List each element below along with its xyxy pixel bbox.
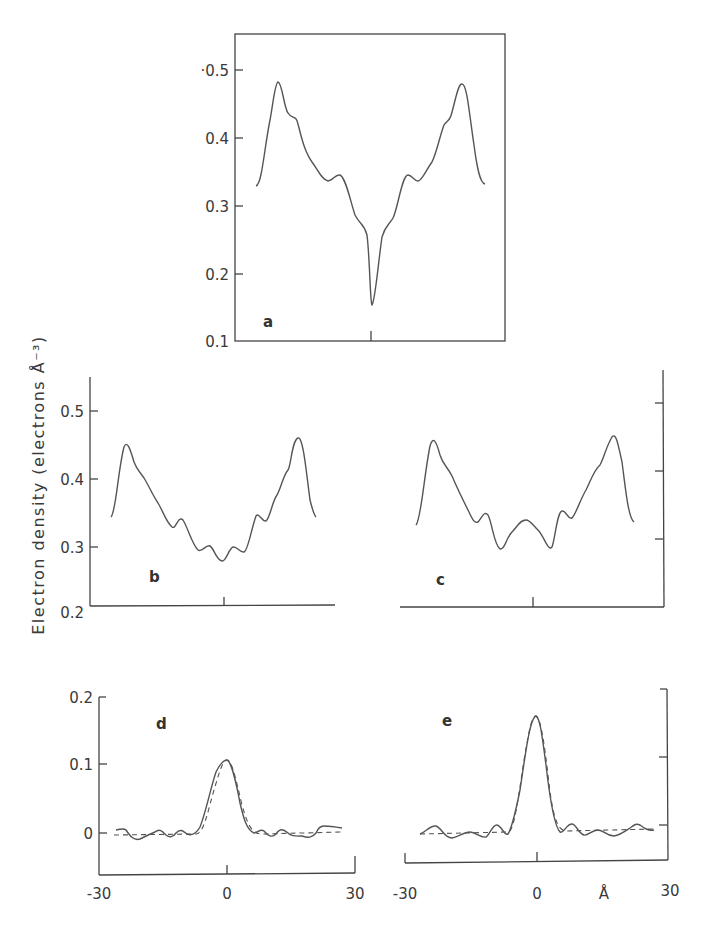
tick-label: 0.4 (60, 471, 84, 489)
tick-label: 0.5 (60, 403, 84, 421)
panel-b-x-axis (90, 605, 335, 606)
panel-e: -30 0 30 Å e (393, 689, 680, 903)
panel-a-frame (235, 34, 505, 341)
panel-a: ·0.5 0.4 0.3 0.2 0.1 a (200, 34, 505, 351)
tick-label: 0.3 (60, 539, 84, 557)
curve-b (111, 438, 316, 561)
panel-c-y-axis (663, 370, 664, 607)
tick-label: 0.2 (69, 689, 93, 707)
curve-d-model (114, 760, 342, 835)
x-tick-label: 0 (222, 885, 232, 903)
panel-c: c (400, 370, 664, 607)
x-tick-label: 30 (660, 882, 679, 900)
tick-label: 0.4 (205, 130, 229, 148)
x-axis-unit: Å (599, 884, 610, 903)
y-axis-label: Electron density (electrons Å⁻³) (29, 335, 48, 635)
tick-label: 0.1 (69, 756, 93, 774)
curve-e-model (420, 716, 654, 834)
curve-a (256, 82, 485, 305)
figure-canvas: Electron density (electrons Å⁻³) ·0.5 0.… (0, 0, 705, 925)
panel-label: b (149, 568, 160, 586)
tick-label: ·0.5 (200, 62, 229, 80)
panel-b: 0.5 0.4 0.3 0.2 b (60, 377, 335, 622)
curve-e-observed (420, 716, 654, 838)
panel-label: a (263, 313, 273, 331)
tick-label: 0.2 (60, 604, 84, 622)
panel-d: 0.2 0.1 0 -30 0 30 d (69, 689, 364, 903)
tick-label: 0.3 (205, 198, 229, 216)
x-tick-label: 0 (532, 885, 542, 903)
x-tick-label: -30 (393, 885, 418, 903)
curve-d-observed (116, 760, 342, 839)
x-tick-label: -30 (87, 885, 112, 903)
x-tick-label: 30 (345, 885, 364, 903)
tick-label: 0.2 (205, 266, 229, 284)
panel-label: c (436, 571, 445, 589)
panel-e-y-axis (667, 689, 668, 860)
tick-label: 0.1 (205, 333, 229, 351)
panel-label: e (442, 712, 452, 730)
curve-c (416, 436, 634, 549)
panel-label: d (156, 715, 167, 733)
tick-label: 0 (83, 825, 93, 843)
